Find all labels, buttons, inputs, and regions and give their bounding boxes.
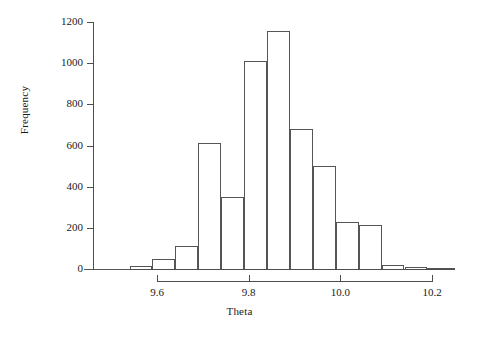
x-baseline: [84, 269, 455, 270]
histogram-bar: [84, 269, 107, 270]
histogram-bar: [336, 222, 359, 269]
x-tick-label-wrap: 10.2: [402, 286, 462, 298]
histogram-bar: [130, 266, 153, 269]
x-tick-label: 9.6: [127, 286, 187, 298]
histogram-bar: [405, 267, 428, 269]
histogram-bar: [267, 31, 290, 269]
x-tick-label: 10.2: [402, 286, 462, 298]
histogram-bar: [290, 129, 313, 269]
x-axis-line: [157, 281, 433, 282]
histogram-bar: [359, 225, 382, 269]
x-tick-mark: [249, 275, 250, 281]
x-tick-label-wrap: 10.0: [310, 286, 370, 298]
histogram-bar: [198, 143, 221, 269]
x-axis-title: Theta: [0, 305, 479, 317]
x-tick-label-wrap: 9.6: [127, 286, 187, 298]
x-tick-mark: [157, 275, 158, 281]
x-tick-mark: [340, 275, 341, 281]
histogram-bar: [313, 166, 336, 269]
histogram-bar: [244, 61, 267, 269]
histogram-bar: [152, 259, 175, 269]
histogram-bar: [221, 197, 244, 269]
histogram-bar: [107, 269, 130, 270]
histogram-bar: [382, 265, 405, 269]
x-tick-label: 9.8: [219, 286, 279, 298]
x-tick-label-wrap: 9.8: [219, 286, 279, 298]
x-tick-label: 10.0: [310, 286, 370, 298]
histogram-figure: Frequency 020040060080010001200 9.69.810…: [0, 0, 479, 337]
histogram-bar: [175, 246, 198, 269]
histogram-bar: [427, 268, 455, 269]
x-tick-mark: [432, 275, 433, 281]
